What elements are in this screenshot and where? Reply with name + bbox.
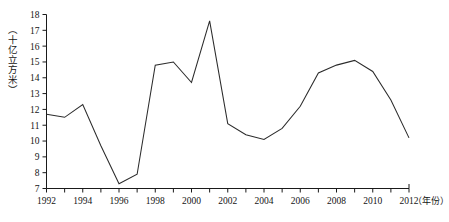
y-tick-label: 14 [30,73,40,83]
x-axis-unit-label: （年份） [413,195,449,206]
x-tick-label: 2008 [327,196,346,206]
y-tick-label: 7 [35,184,40,194]
line-chart-figure: （十亿立方米） 789101112131415161718 1992199419… [0,0,449,222]
chart-plot-area: 789101112131415161718 199219941996199820… [0,0,449,222]
y-axis: 789101112131415161718 [30,10,47,194]
y-tick-label: 17 [30,26,40,36]
y-tick-label: 15 [30,57,40,67]
x-tick-label: 1998 [146,196,165,206]
x-tick-label: 2000 [182,196,201,206]
x-axis-unit-text: （年份） [413,195,449,206]
x-tick-label: 2004 [255,196,274,206]
y-tick-label: 10 [30,136,40,146]
series-polyline [47,21,410,184]
x-tick-label: 2002 [218,196,237,206]
y-tick-label: 16 [30,42,40,52]
y-tick-label: 9 [35,152,40,162]
y-tick-label: 13 [30,89,40,99]
x-tick-label: 2006 [291,196,310,206]
y-tick-label: 11 [30,121,39,131]
x-tick-label: 1996 [110,196,129,206]
y-tick-label: 8 [35,168,40,178]
y-tick-label: 18 [30,10,40,20]
x-tick-label: 1994 [73,196,92,206]
x-tick-label: 2010 [363,196,382,206]
x-axis: 1992199419961998200020022004200620082010… [37,184,419,206]
x-tick-label: 1992 [37,196,56,206]
y-tick-label: 12 [30,105,40,115]
data-series-line [47,21,410,184]
